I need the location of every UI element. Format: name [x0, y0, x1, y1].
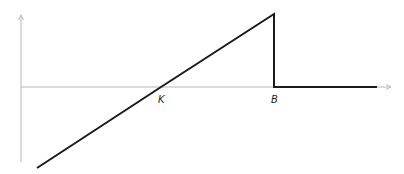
payoff-line [37, 14, 377, 168]
label-k: K [158, 94, 166, 105]
payoff-diagram: K B [0, 0, 404, 174]
label-b: B [271, 94, 278, 105]
